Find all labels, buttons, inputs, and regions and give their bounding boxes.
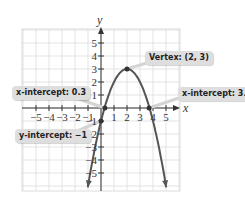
svg-text:−4: −4 — [43, 111, 55, 123]
svg-text:−1: −1 — [85, 115, 97, 127]
svg-text:−5: −5 — [85, 167, 97, 179]
svg-text:2: 2 — [92, 76, 98, 88]
vertex-callout: Vertex: (2, 3) — [145, 51, 213, 65]
x-intercept-right-callout: x-intercept: 3.7 — [178, 87, 245, 101]
svg-text:5: 5 — [163, 111, 169, 123]
svg-text:2: 2 — [124, 111, 130, 123]
svg-text:1: 1 — [111, 111, 117, 123]
svg-text:−3: −3 — [56, 111, 68, 123]
svg-text:1: 1 — [92, 89, 98, 101]
svg-text:−5: −5 — [30, 111, 42, 123]
svg-text:3: 3 — [137, 111, 143, 123]
svg-text:−4: −4 — [85, 154, 97, 166]
x-intercept-left-callout: x-intercept: 0.3 — [12, 86, 90, 100]
graph: −5−4−3−2−11234554321−1−2−3−4−5 x y — [0, 0, 245, 204]
svg-text:5: 5 — [92, 37, 98, 49]
svg-text:3: 3 — [92, 63, 98, 75]
y-axis-label: y — [96, 13, 103, 27]
svg-text:4: 4 — [150, 111, 156, 123]
y-intercept-callout: y-intercept: −1 — [15, 129, 91, 143]
svg-text:−2: −2 — [69, 111, 81, 123]
svg-text:4: 4 — [92, 50, 98, 62]
x-axis-label: x — [182, 101, 189, 115]
